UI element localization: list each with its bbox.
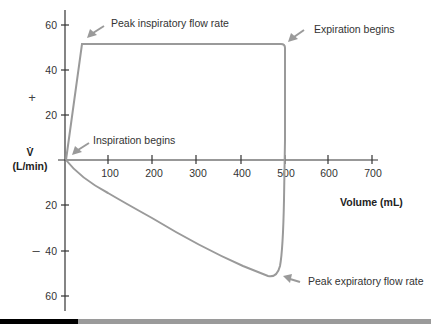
annotation-inspiration-begins: Inspiration begins <box>93 134 175 146</box>
x-tick-label: 400 <box>233 167 251 179</box>
annotation-expiration-begins: Expiration begins <box>314 23 395 35</box>
y-tick-label: 60 <box>45 19 57 31</box>
footer-bar-gray <box>78 319 431 324</box>
arrow-icon <box>93 26 104 33</box>
x-tick-label: 500 <box>277 167 295 179</box>
y-tick-label: 40 <box>45 64 57 76</box>
arrow-icon <box>283 274 292 283</box>
negative-sign-label: – <box>32 243 40 258</box>
flow-volume-chart: 60 40 20 20 40 60 100 200 300 400 500 60… <box>0 0 431 324</box>
annotation-peak-expiratory: Peak expiratory flow rate <box>308 275 424 287</box>
x-tick-label: 600 <box>320 167 338 179</box>
y-tick-label: 60 <box>45 290 57 302</box>
x-tick-label: 300 <box>189 167 207 179</box>
y-axis-symbol: V̇ <box>26 146 33 158</box>
arrow-icon <box>294 30 304 37</box>
annotation-arrows <box>72 26 304 283</box>
x-axis-title: Volume (mL) <box>340 196 403 208</box>
y-tick-label: 40 <box>45 245 57 257</box>
y-axis-unit: (L/min) <box>13 160 48 172</box>
annotation-peak-inspiratory: Peak inspiratory flow rate <box>111 17 229 29</box>
footer-bar-dark <box>0 319 78 324</box>
x-tick-label: 200 <box>145 167 163 179</box>
y-tick-label: 20 <box>45 199 57 211</box>
x-tick-label: 700 <box>364 167 382 179</box>
arrow-icon <box>290 279 300 282</box>
y-tick-label: 20 <box>45 109 57 121</box>
positive-sign-label: + <box>28 90 36 105</box>
arrow-icon <box>78 143 89 150</box>
x-tick-label: 100 <box>101 167 119 179</box>
